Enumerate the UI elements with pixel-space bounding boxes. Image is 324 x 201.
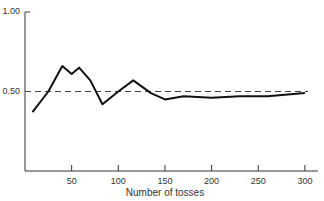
plot-area — [0, 0, 324, 201]
x-axis-title: Number of tosses — [126, 187, 204, 198]
x-tick-label: 50 — [67, 176, 77, 186]
x-tick-label: 300 — [297, 176, 312, 186]
y-tick-label-1: 1.00 — [2, 6, 20, 16]
x-tick-label: 100 — [111, 176, 126, 186]
x-tick-label: 250 — [251, 176, 266, 186]
data-line — [32, 66, 304, 112]
x-tick-label: 150 — [157, 176, 172, 186]
x-tick-label: 200 — [204, 176, 219, 186]
x-ticks — [72, 165, 305, 171]
y-tick-label-0: 0.50 — [2, 86, 20, 96]
